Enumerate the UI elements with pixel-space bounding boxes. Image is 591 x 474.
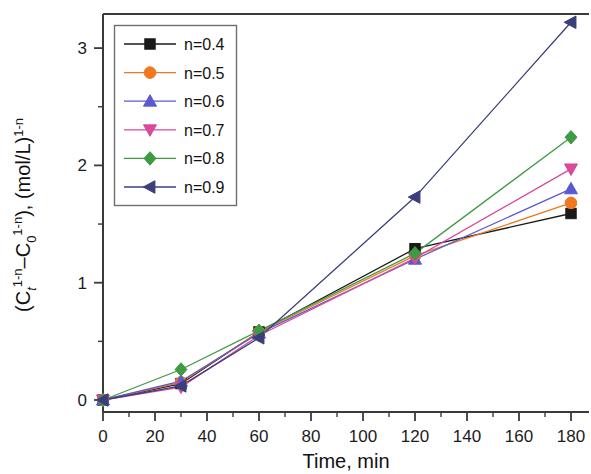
ylabel-sup-c: 1-n	[11, 118, 26, 137]
ylabel-sup-a: 1-n	[10, 268, 25, 287]
ylabel-sub-t: t	[24, 286, 39, 291]
y-axis-ticks: 0123	[78, 39, 103, 410]
kinetics-line-chart: 0123 020406080100120140160180 n=0.4n=0.5…	[0, 0, 591, 474]
y-tick-label: 1	[78, 274, 87, 293]
data-point	[565, 182, 578, 193]
ylabel-dash: –C	[12, 243, 34, 269]
data-point	[564, 16, 576, 28]
x-axis-ticks: 020406080100120140160180	[98, 412, 585, 446]
x-tick-label: 0	[98, 427, 107, 446]
y-axis-title: (Ct1-n–C01-n), (mol/L)1-n	[10, 118, 39, 312]
series-n05	[103, 203, 571, 400]
markers-n04	[98, 208, 576, 405]
series-line	[103, 203, 571, 400]
x-tick-label: 100	[349, 427, 377, 446]
legend-swatch-marker	[144, 67, 156, 79]
x-tick-label: 40	[198, 427, 217, 446]
x-tick-label: 120	[401, 427, 429, 446]
x-tick-label: 140	[453, 427, 481, 446]
legend-label: n=0.7	[184, 122, 225, 139]
x-tick-label: 60	[250, 427, 269, 446]
legend-label: n=0.5	[184, 65, 225, 82]
legend-label: n=0.4	[184, 36, 225, 53]
ylabel-close: ), (mol/L)	[12, 137, 34, 217]
ylabel-sup-b: 1-n	[10, 217, 25, 236]
svg-text:(Ct1-n–C01-n), (mol/L)1-n: (Ct1-n–C01-n), (mol/L)1-n	[10, 118, 39, 312]
y-tick-label: 0	[78, 391, 87, 410]
data-point	[565, 164, 578, 175]
legend-label: n=0.8	[184, 150, 225, 167]
data-point	[565, 130, 577, 144]
chart-legend: n=0.4n=0.5n=0.6n=0.7n=0.8n=0.9	[115, 26, 237, 206]
ylabel-open: (C	[12, 291, 34, 312]
ylabel-sub-0: 0	[24, 236, 39, 243]
legend-swatch-marker	[145, 39, 155, 49]
y-tick-label: 3	[78, 39, 87, 58]
legend-label: n=0.9	[184, 179, 225, 196]
data-point	[565, 197, 577, 209]
data-point	[175, 363, 187, 377]
x-tick-label: 160	[505, 427, 533, 446]
chart-figure: 0123 020406080100120140160180 n=0.4n=0.5…	[0, 0, 591, 474]
x-tick-label: 180	[557, 427, 585, 446]
y-tick-label: 2	[78, 156, 87, 175]
x-tick-label: 80	[302, 427, 321, 446]
legend-label: n=0.6	[184, 93, 225, 110]
x-tick-label: 20	[146, 427, 165, 446]
data-point	[566, 208, 576, 218]
x-axis-title: Time, min	[302, 450, 389, 472]
